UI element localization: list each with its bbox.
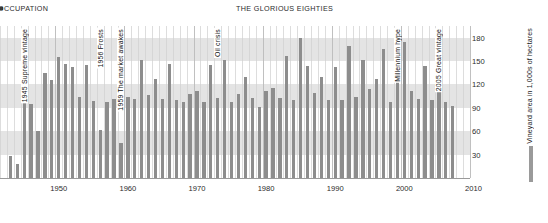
bar xyxy=(417,99,420,178)
bar xyxy=(368,89,371,178)
bar xyxy=(78,97,81,178)
bar xyxy=(154,79,157,178)
bar xyxy=(9,156,12,178)
bar xyxy=(285,56,288,178)
legend-label: Vineyard area in 1,000s of hectares xyxy=(526,28,533,144)
bar xyxy=(182,102,185,178)
annotation-1973: Oil crisis xyxy=(214,28,221,58)
x-tick-label: 2010 xyxy=(465,184,482,193)
bar xyxy=(375,79,378,178)
bar xyxy=(64,64,67,178)
bar xyxy=(451,106,454,178)
bar xyxy=(264,91,267,178)
x-tick-label: 1990 xyxy=(327,184,344,193)
y-tick-label: 120 xyxy=(472,80,485,89)
bar xyxy=(133,99,136,179)
plot-area: 1945 Supreme vintage1956 Frosts1959 The … xyxy=(0,26,470,178)
bar xyxy=(223,60,226,178)
bar xyxy=(237,94,240,178)
bar xyxy=(188,94,191,178)
x-tick-label: 1970 xyxy=(189,184,206,193)
gridline-decade xyxy=(470,26,471,178)
legend-swatch xyxy=(529,146,533,182)
annotation-1945: 1945 Supreme vintage xyxy=(21,28,28,103)
bar xyxy=(92,101,95,178)
chart-root: OCCUPATION THE GLORIOUS EIGHTIES 1945 Su… xyxy=(0,0,548,223)
bar xyxy=(50,80,53,178)
bar xyxy=(278,98,281,178)
bar xyxy=(161,99,164,179)
legend: Vineyard area in 1,000s of hectares xyxy=(515,28,548,188)
bar xyxy=(23,103,26,178)
bar xyxy=(36,131,39,178)
bar xyxy=(126,97,129,178)
bar xyxy=(209,65,212,178)
bar xyxy=(423,66,426,178)
x-tick-label: 2000 xyxy=(396,184,413,193)
bar xyxy=(216,98,219,178)
bar xyxy=(112,99,115,178)
bar xyxy=(389,102,392,178)
x-tick-label: 1960 xyxy=(119,184,136,193)
bar xyxy=(168,64,171,178)
bar xyxy=(71,67,74,178)
bar xyxy=(147,95,150,178)
annotation-1999: Millennium hype xyxy=(394,28,401,83)
x-tick-label: 1980 xyxy=(258,184,275,193)
bar xyxy=(29,104,32,178)
bar xyxy=(43,73,46,178)
era-header-occupation: OCCUPATION xyxy=(0,4,48,13)
bar xyxy=(354,97,357,178)
bar xyxy=(299,38,302,178)
bar xyxy=(105,102,108,178)
y-tick-label: 150 xyxy=(472,57,485,66)
bar xyxy=(306,66,309,178)
bar xyxy=(251,98,254,178)
bar xyxy=(410,91,413,178)
bar xyxy=(85,65,88,178)
y-tick-label: 180 xyxy=(472,33,485,42)
bar xyxy=(340,100,343,178)
bar xyxy=(327,100,330,178)
bar xyxy=(382,49,385,178)
bar xyxy=(119,143,122,178)
bar xyxy=(444,102,447,178)
bar xyxy=(99,130,102,178)
annotation-1959: 1959 The market awakes xyxy=(117,28,124,112)
annotation-1956: 1956 Frosts xyxy=(97,28,104,69)
bar xyxy=(271,88,274,178)
bar xyxy=(292,100,295,178)
era-header-eighties: THE GLORIOUS EIGHTIES xyxy=(236,4,333,13)
x-tick-label: 1950 xyxy=(50,184,67,193)
bar xyxy=(175,100,178,178)
y-tick-label: 60 xyxy=(472,127,480,136)
bar xyxy=(230,102,233,178)
bar xyxy=(195,91,198,178)
bar xyxy=(403,42,406,178)
bar xyxy=(334,67,337,178)
bar xyxy=(202,102,205,178)
bar xyxy=(258,107,261,178)
x-axis: 1950196019701980199020002010 xyxy=(0,180,470,200)
bar xyxy=(361,60,364,178)
axis-baseline xyxy=(0,178,470,179)
bar xyxy=(320,77,323,178)
bar xyxy=(244,77,247,178)
bar xyxy=(140,60,143,178)
y-axis: 306090120150180 xyxy=(472,26,502,178)
bar xyxy=(347,46,350,179)
bar xyxy=(57,57,60,178)
bar xyxy=(313,93,316,178)
y-tick-label: 90 xyxy=(472,103,480,112)
annotation-2005: 2005 Great vintage xyxy=(435,28,442,92)
y-tick-label: 30 xyxy=(472,150,480,159)
bar xyxy=(430,100,433,178)
bar xyxy=(16,164,19,178)
